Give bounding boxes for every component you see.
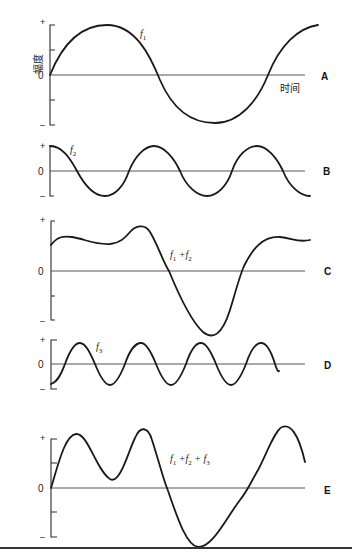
svg-text:0: 0	[38, 166, 44, 177]
x-axis-label: 时间	[280, 82, 300, 94]
svg-text:–: –	[40, 384, 45, 394]
svg-text:–: –	[40, 532, 45, 542]
waveform-figure: 幅度 + 0 – f1 时间 A + 0 – f2 B + 0 – f1 +f2…	[0, 0, 352, 560]
panel-b: + 0 – f2 B	[38, 141, 330, 201]
svg-text:0: 0	[38, 483, 44, 494]
panel-label-e: E	[324, 485, 331, 496]
panel-d: + 0 – f3 D	[38, 335, 331, 394]
svg-text:–: –	[40, 191, 45, 201]
svg-text:0: 0	[38, 266, 44, 277]
svg-text:0: 0	[38, 70, 44, 81]
svg-text:+: +	[40, 335, 45, 345]
svg-text:–: –	[40, 120, 45, 130]
curve-label-f1-f2: f1 +f2	[170, 249, 192, 263]
curve-label-f2: f2	[70, 144, 77, 158]
curve-label-f1-f2-f3: f1 +f2 + f3	[170, 453, 210, 467]
panel-e: + 0 – f1 +f2 + f3 E	[38, 426, 331, 547]
svg-text:+: +	[40, 433, 45, 443]
svg-text:0: 0	[38, 359, 44, 370]
svg-text:+: +	[40, 17, 45, 27]
panel-c: + 0 – f1 +f2 C	[38, 215, 331, 336]
panel-label-c: C	[324, 266, 331, 277]
svg-text:–: –	[40, 316, 45, 326]
panel-label-d: D	[324, 360, 331, 371]
svg-text:+: +	[40, 141, 45, 151]
panel-label-a: A	[321, 71, 328, 82]
curve-label-f3: f3	[96, 341, 103, 355]
svg-text:+: +	[40, 215, 45, 225]
curve-label-f1: f1	[140, 28, 147, 42]
bottom-divider	[0, 547, 352, 549]
panel-label-b: B	[323, 166, 330, 177]
panel-a: + 0 – f1 时间 A	[38, 17, 328, 130]
